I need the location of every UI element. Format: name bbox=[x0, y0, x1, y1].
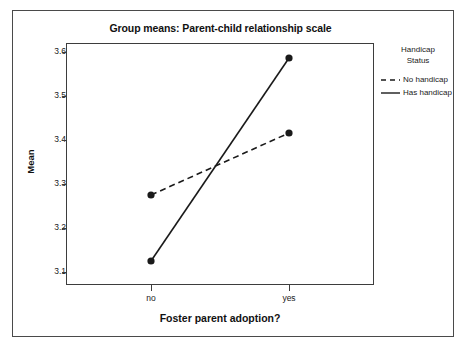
legend-title-line-1: Handicap bbox=[381, 44, 455, 55]
legend-label-no-handicap: No handicap bbox=[403, 75, 448, 84]
legend-items: No handicap Has handicap bbox=[381, 73, 455, 99]
y-axis-title: Mean bbox=[25, 125, 36, 199]
legend-label-has-handicap: Has handicap bbox=[403, 88, 452, 97]
data-point-no-handicap-no bbox=[147, 191, 154, 198]
legend-title: Handicap Status bbox=[381, 44, 455, 66]
series-line-has-handicap bbox=[151, 58, 289, 261]
series-line-no-handicap bbox=[151, 133, 289, 195]
data-point-has-handicap-no bbox=[147, 257, 154, 264]
x-tick-label-yes: yes bbox=[259, 293, 319, 303]
x-axis-title: Foster parent adoption? bbox=[66, 312, 374, 324]
chart-page: Group means: Parent-child relationship s… bbox=[0, 0, 471, 348]
chart-title: Group means: Parent-child relationship s… bbox=[66, 22, 375, 34]
legend-solid-line-icon bbox=[381, 88, 400, 98]
legend-item-no-handicap: No handicap bbox=[381, 73, 455, 86]
data-point-has-handicap-yes bbox=[285, 54, 292, 61]
legend: Handicap Status No handicap Has handicap bbox=[381, 44, 455, 99]
legend-dashed-line-icon bbox=[381, 75, 400, 85]
y-axis: 3.6 3.5 3.4 3.3 3.2 3.1 bbox=[34, 0, 66, 348]
legend-title-line-2: Status bbox=[381, 55, 455, 66]
legend-item-has-handicap: Has handicap bbox=[381, 86, 455, 99]
x-tick-mark-yes bbox=[289, 285, 290, 291]
x-tick-mark-no bbox=[151, 285, 152, 291]
x-tick-label-no: no bbox=[121, 293, 181, 303]
plot-series-layer bbox=[66, 43, 374, 285]
data-point-no-handicap-yes bbox=[285, 129, 292, 136]
